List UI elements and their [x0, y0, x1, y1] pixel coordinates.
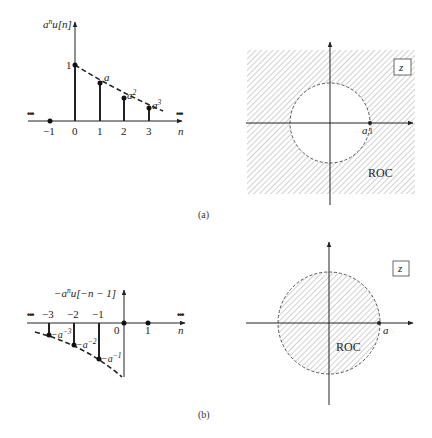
svg-text:−3: −3 [42, 308, 54, 320]
roc-label: ROC [368, 166, 393, 180]
stems [75, 65, 149, 121]
value-label-1: a [104, 71, 110, 83]
x-axis-label: n [178, 324, 184, 336]
ellipsis-left: ••• [27, 109, 34, 119]
roc-label: ROC [336, 340, 361, 354]
svg-text:0: 0 [114, 324, 120, 336]
value-label-2: a2 [127, 88, 137, 101]
panel-a-sequence-plot: anu[n] 1 a a2 a3 ••• ••• −1 0 1 2 3 n [27, 17, 184, 137]
pole-label: a [362, 124, 368, 136]
n-tick-labels: −1 0 1 2 3 [43, 125, 152, 137]
caption-a: (a) [198, 209, 209, 221]
svg-text:−1: −1 [43, 125, 55, 137]
y-axis-label: −anu[−n − 1] [54, 286, 116, 299]
svg-text:0: 0 [72, 125, 78, 137]
panel-a-z-plane: a 1 z ROC [246, 42, 415, 205]
exponential-envelope [75, 65, 163, 111]
unit-tick-label: 1 [369, 127, 373, 136]
svg-text:2: 2 [121, 125, 127, 137]
figure-canvas: anu[n] 1 a a2 a3 ••• ••• −1 0 1 2 3 n a … [0, 0, 432, 438]
z-plane-label: z [397, 262, 403, 274]
value-label-3: a3 [152, 98, 162, 111]
svg-text:3: 3 [146, 125, 152, 137]
value-label-m2: −a−2 [76, 337, 97, 350]
svg-text:−2: −2 [67, 308, 79, 320]
pole-point [368, 121, 372, 125]
svg-text:1: 1 [145, 324, 151, 336]
panel-b-sequence-plot: −anu[−n − 1] ••• ••• −3 −2 −1 0 1 n −a−3… [27, 286, 185, 377]
pole-label: a [383, 324, 389, 336]
value-label-0: 1 [66, 59, 72, 71]
ellipsis-left: ••• [27, 310, 34, 320]
x-axis-label: n [178, 125, 184, 137]
ellipsis-right: ••• [176, 109, 183, 119]
caption-b: (b) [198, 409, 210, 421]
z-plane-label: z [398, 61, 404, 73]
ellipsis-right: ••• [177, 310, 184, 320]
panel-b-z-plane: a z ROC [246, 242, 413, 405]
y-axis-label: anu[n] [43, 17, 72, 30]
pole-point [377, 321, 381, 325]
svg-text:1: 1 [97, 125, 103, 137]
value-label-m1: −a−1 [101, 351, 122, 364]
value-label-m3: −a−3 [51, 327, 72, 340]
svg-text:−1: −1 [92, 308, 104, 320]
